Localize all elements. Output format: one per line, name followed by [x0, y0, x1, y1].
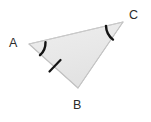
vertex-label-c: C	[129, 9, 138, 22]
vertex-label-b: B	[73, 99, 81, 112]
vertex-label-a: A	[9, 37, 17, 50]
geometry-figure: A B C	[0, 0, 151, 122]
triangle-shape	[29, 22, 123, 88]
